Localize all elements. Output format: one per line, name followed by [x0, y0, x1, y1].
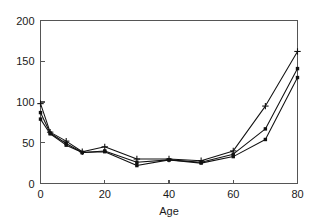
marker-plus — [37, 100, 43, 106]
y-tick-label: 200 — [16, 15, 34, 27]
y-tick-labels: 050100150200 — [16, 15, 34, 190]
marker-dot — [167, 158, 170, 161]
marker-dot — [296, 67, 299, 70]
marker-dot — [135, 164, 138, 167]
y-tick-label: 0 — [28, 178, 34, 190]
marker-plus — [102, 144, 108, 150]
marker-dot — [135, 161, 138, 164]
x-axis-title: Age — [159, 205, 179, 217]
marker-dot — [39, 117, 42, 120]
marker-dot — [39, 111, 42, 114]
marker-dot — [199, 161, 202, 164]
marker-dot — [264, 127, 267, 130]
marker-dot — [296, 76, 299, 79]
marker-dot — [103, 150, 106, 153]
y-tick-label: 150 — [16, 55, 34, 67]
marker-dot — [232, 155, 235, 158]
line-chart: 050100150200 020406080 Age — [0, 0, 317, 224]
series-line-series-3 — [41, 78, 298, 166]
marker-dot — [65, 143, 68, 146]
marker-plus — [294, 48, 300, 54]
marker-dot — [48, 132, 51, 135]
marker-dot — [264, 138, 267, 141]
series-line-series-1 — [41, 51, 298, 160]
chart-figure: 050100150200 020406080 Age — [0, 0, 317, 224]
x-tick-label: 40 — [163, 188, 175, 200]
x-tick-label: 60 — [227, 188, 239, 200]
x-tick-label: 0 — [37, 188, 43, 200]
y-tick-label: 50 — [22, 137, 34, 149]
x-tick-labels: 020406080 — [37, 188, 303, 200]
data-series — [41, 51, 298, 165]
marker-dot — [81, 151, 84, 154]
y-tick-label: 100 — [16, 96, 34, 108]
x-tick-label: 20 — [99, 188, 111, 200]
x-tick-label: 80 — [291, 188, 303, 200]
